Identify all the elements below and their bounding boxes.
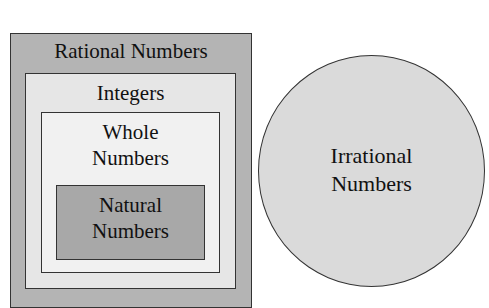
- rational-numbers-label: Rational Numbers: [11, 39, 251, 63]
- whole-numbers-label-line1: Whole: [42, 120, 219, 144]
- irrational-numbers-label-line2: Numbers: [259, 170, 484, 198]
- natural-numbers-label-line1: Natural: [57, 193, 204, 217]
- whole-numbers-label-line2: Numbers: [42, 146, 219, 170]
- natural-numbers-set: Natural Numbers: [56, 185, 205, 260]
- integers-label: Integers: [26, 81, 235, 105]
- irrational-numbers-label-line1: Irrational: [259, 142, 484, 170]
- natural-numbers-label-line2: Numbers: [57, 219, 204, 243]
- irrational-numbers-set: Irrational Numbers: [258, 55, 485, 287]
